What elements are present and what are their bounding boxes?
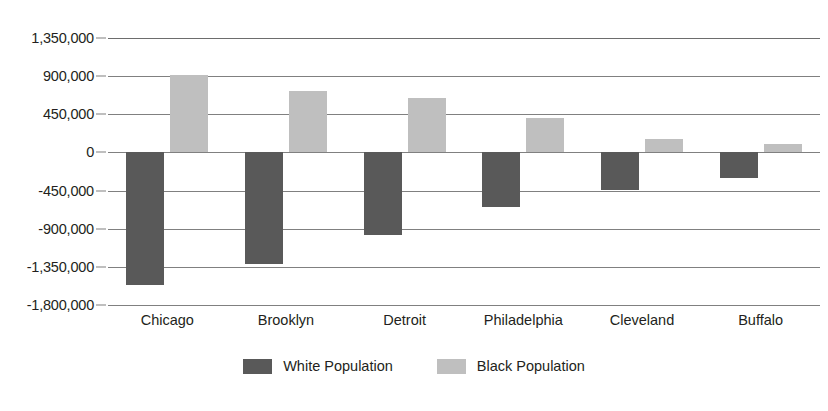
bar-chart: 1,350,000900,000450,0000-450,000-900,000… <box>0 0 828 411</box>
bar-white-population <box>601 152 639 189</box>
bar-white-population <box>245 152 283 264</box>
bar-groups <box>108 38 820 305</box>
y-axis-tick-label: -900,000 <box>0 221 94 237</box>
bar-group <box>227 38 346 305</box>
bar-white-population <box>364 152 402 234</box>
y-axis-tick-label: 1,350,000 <box>0 30 94 46</box>
legend-item-white-population: White Population <box>243 358 393 374</box>
bar-black-population <box>408 98 446 153</box>
y-axis-tick-label: 900,000 <box>0 68 94 84</box>
bar-black-population <box>526 118 564 152</box>
y-axis-tick-label: -1,800,000 <box>0 297 94 313</box>
x-axis-label: Buffalo <box>701 312 820 328</box>
x-axis-label: Cleveland <box>583 312 702 328</box>
bar-group <box>583 38 702 305</box>
x-axis-label: Detroit <box>345 312 464 328</box>
legend-label-white-population: White Population <box>283 358 393 374</box>
y-axis-tick-mark <box>96 76 106 77</box>
y-axis-tick-mark <box>96 266 106 267</box>
y-axis-tick-mark <box>96 38 106 39</box>
bar-black-population <box>645 139 683 153</box>
bar-black-population <box>170 75 208 152</box>
black-population-swatch-icon <box>437 359 466 374</box>
bar-black-population <box>289 91 327 152</box>
legend-label-black-population: Black Population <box>477 358 585 374</box>
gridline <box>108 305 820 306</box>
white-population-swatch-icon <box>243 359 272 374</box>
legend-item-black-population: Black Population <box>437 358 585 374</box>
x-axis-label: Philadelphia <box>464 312 583 328</box>
x-axis-label: Brooklyn <box>227 312 346 328</box>
y-axis-tick-mark <box>96 228 106 229</box>
bar-group <box>108 38 227 305</box>
y-axis-tick-mark <box>96 190 106 191</box>
chart-legend: White Population Black Population <box>0 358 828 374</box>
y-axis-tick-label: 450,000 <box>0 106 94 122</box>
y-axis-tick-mark <box>96 114 106 115</box>
bar-group <box>345 38 464 305</box>
y-axis-tick-mark <box>96 152 106 153</box>
y-axis-tick-mark <box>96 305 106 306</box>
bar-white-population <box>720 152 758 177</box>
bar-group <box>464 38 583 305</box>
bar-group <box>701 38 820 305</box>
y-axis-tick-label: 0 <box>0 144 94 160</box>
bar-white-population <box>482 152 520 207</box>
y-axis-tick-label: -1,350,000 <box>0 259 94 275</box>
bar-black-population <box>764 144 802 153</box>
x-axis-label: Chicago <box>108 312 227 328</box>
bar-white-population <box>126 152 164 285</box>
y-axis-tick-label: -450,000 <box>0 183 94 199</box>
